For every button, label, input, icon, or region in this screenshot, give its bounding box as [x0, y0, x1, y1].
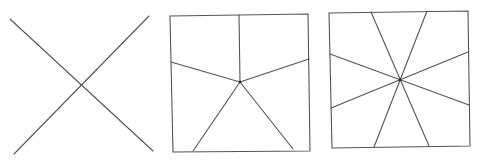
diagram-canvas — [0, 0, 479, 161]
panel-x-lines — [10, 16, 153, 154]
dividing-line — [171, 62, 240, 82]
center-point — [239, 81, 242, 84]
center-point — [399, 79, 402, 82]
dividing-line — [239, 15, 240, 82]
dividing-line — [240, 59, 309, 82]
dividing-line — [240, 82, 293, 149]
panel-square-eight-sections — [329, 11, 470, 148]
panel-square-five-sections — [170, 14, 310, 152]
dividing-line — [14, 16, 149, 154]
dividing-line — [193, 82, 240, 151]
